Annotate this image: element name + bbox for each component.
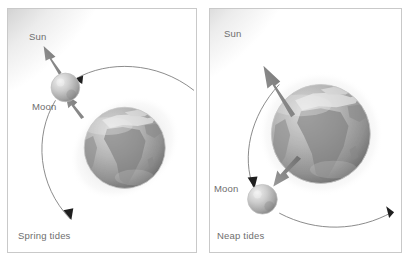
moon-body xyxy=(248,184,278,214)
earth-body xyxy=(270,84,370,183)
sun-body xyxy=(8,9,97,90)
tides-diagram: Sun Moon Spring tides xyxy=(0,0,409,261)
orbit-arrowhead-lower xyxy=(386,206,394,218)
orbit-arrowhead-lower xyxy=(63,208,73,220)
panel-neap-tides: Sun Moon Neap tides xyxy=(209,8,402,253)
moon-body xyxy=(51,73,80,102)
spring-tides-illustration xyxy=(8,9,196,252)
neap-tides-illustration xyxy=(210,9,401,252)
panel-spring-tides: Sun Moon Spring tides xyxy=(7,8,197,253)
sun-body xyxy=(210,9,283,83)
